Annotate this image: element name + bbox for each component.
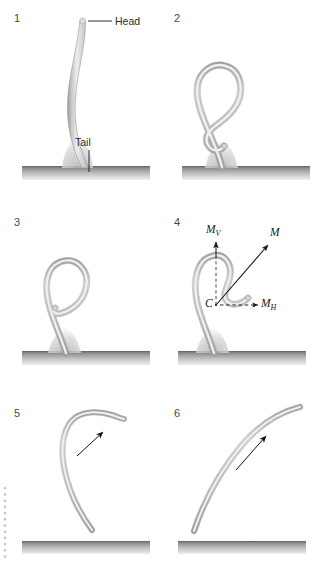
left-dotted-rule <box>3 487 5 561</box>
panel-5-art <box>0 383 160 561</box>
motion-arrow <box>77 432 103 456</box>
head-tip <box>246 296 251 301</box>
worm-body-flight-highlight <box>63 412 125 530</box>
worm-body-arc <box>194 407 300 531</box>
panel-4: 4 MV M MH C <box>160 210 320 375</box>
worm-body-flight <box>63 412 125 530</box>
panel-6: 6 <box>160 383 320 561</box>
head-tip <box>53 306 58 311</box>
panel-3: 3 <box>0 210 160 375</box>
worm-body-arc-highlight <box>194 407 300 531</box>
ground-bar <box>182 166 310 180</box>
label-mv-sub: V <box>216 229 221 238</box>
figure-container: 1 Head Tail 2 <box>0 0 320 561</box>
label-mh-sub: H <box>271 303 277 312</box>
panel-1: 1 Head Tail <box>0 0 160 190</box>
label-mv: MV <box>206 223 220 238</box>
panel-4-art <box>160 210 320 375</box>
panel-1-art <box>0 0 160 190</box>
panel-3-art <box>0 210 160 375</box>
ground-bar <box>22 351 150 365</box>
panel-2-art <box>160 0 320 190</box>
head-tip <box>222 143 227 148</box>
head-label: Head <box>115 15 140 27</box>
ground-bar <box>178 541 306 554</box>
label-mh-base: M <box>261 297 271 309</box>
head-tip <box>80 18 86 24</box>
worm-body-arc-edge <box>194 407 300 531</box>
ground-bar <box>22 541 150 554</box>
motion-arrow <box>236 436 266 470</box>
tail-label: Tail <box>75 136 91 148</box>
label-mh: MH <box>261 297 276 312</box>
label-c: C <box>205 297 213 309</box>
ground-bar <box>178 351 306 365</box>
label-m: M <box>270 226 280 238</box>
label-mv-base: M <box>206 223 216 235</box>
panel-2: 2 <box>160 0 320 190</box>
panel-6-art <box>160 383 320 561</box>
worm-body-flight-edge <box>63 412 125 530</box>
panel-5: 5 <box>0 383 160 561</box>
